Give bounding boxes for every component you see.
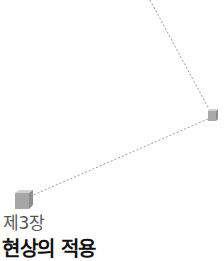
dashed-line-diagonal	[31, 119, 208, 196]
chapter-title: 현상의 적용	[2, 238, 96, 260]
dashed-line-top	[150, 0, 210, 111]
cube-icon	[206, 109, 218, 122]
cube-icon	[14, 189, 34, 210]
chapter-number: 제3장	[3, 213, 44, 233]
